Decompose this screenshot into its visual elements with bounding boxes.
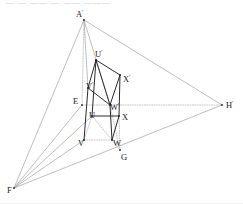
vertex-dot-e	[81, 104, 83, 106]
label-U-prime: U'	[95, 49, 102, 59]
label-F: F	[7, 185, 12, 195]
edge-V-prime-to-V	[84, 88, 88, 140]
vertex-dot-h-prime	[221, 104, 223, 106]
label-W: W	[113, 138, 121, 148]
label-U-prime-prime-mark: '	[101, 49, 102, 55]
top-edge-artifact-text: — — —— — —— ———	[0, 0, 243, 9]
ray-F-to-U	[14, 116, 92, 188]
label-H-prime: H'	[226, 100, 233, 110]
label-A-prime-prime-mark: '	[82, 9, 83, 15]
dotted-lines-layer	[82, 20, 222, 150]
vertex-dot-x	[118, 115, 120, 117]
edge-X-prime-to-W-prime	[110, 75, 120, 105]
label-X-prime-prime-mark: '	[129, 74, 130, 80]
label-V: V	[78, 138, 85, 148]
vertex-dot-a-prime	[83, 19, 85, 21]
geometry-drawing: A'U'X'V'EW'UXVWGFH'	[0, 0, 243, 204]
label-X: X	[122, 112, 128, 122]
label-U: U	[89, 110, 95, 120]
figure-canvas: — — —— — —— ——— A'U'X'V'EW'UXVWGFH'	[0, 0, 243, 204]
label-X-prime: X'	[123, 74, 130, 84]
vertex-dot-g	[119, 149, 121, 151]
vertex-dot-x-prime	[119, 74, 121, 76]
bottom-divider	[0, 203, 243, 204]
edge-X-prime-to-X	[119, 75, 120, 116]
label-G: G	[121, 152, 127, 162]
label-H-prime-prime-mark: '	[232, 100, 233, 106]
vertex-dot-u-prime	[95, 59, 97, 61]
label-A-prime: A'	[76, 9, 83, 19]
ray-F-to-E	[14, 105, 82, 188]
ray-A-prime-to-E	[82, 20, 84, 105]
label-E: E	[73, 96, 78, 106]
vertex-dot-f	[13, 187, 15, 189]
diagonal-U-prime-to-W-prime	[96, 60, 110, 105]
label-W-prime-prime-mark: '	[118, 102, 119, 108]
label-V-prime-prime-mark: '	[92, 81, 93, 87]
label-W-prime: W'	[110, 102, 119, 112]
vertex-labels-layer: A'U'X'V'EW'UXVWGFH'	[7, 9, 233, 195]
label-V-prime: V'	[86, 81, 93, 91]
edge-A-prime-to-H-prime	[84, 20, 222, 105]
